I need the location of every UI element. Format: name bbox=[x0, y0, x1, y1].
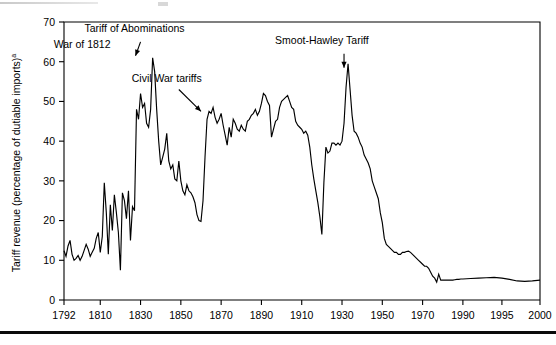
x-axis-tick-labels: 1792181018301850187018901910193019501970… bbox=[52, 309, 552, 321]
x-tick-label: 1995 bbox=[490, 309, 514, 321]
y-tick-label: 50 bbox=[43, 95, 55, 107]
annotation-layer: War of 1812Tariff of AbominationsCivil W… bbox=[54, 22, 369, 111]
x-tick-label: 1970 bbox=[411, 309, 435, 321]
x-tick-label: 1850 bbox=[169, 309, 193, 321]
annotation-label: War of 1812 bbox=[54, 38, 111, 50]
y-axis-tick-labels: 010203040506070 bbox=[43, 16, 55, 306]
x-tick-label: 1890 bbox=[250, 309, 274, 321]
top-decorative-rule bbox=[0, 2, 98, 4]
y-axis-ticks bbox=[59, 22, 64, 300]
y-tick-label: 70 bbox=[43, 16, 55, 28]
x-axis-ticks bbox=[64, 300, 540, 305]
y-tick-label: 10 bbox=[43, 254, 55, 266]
annotation-label: Civil War tariffs bbox=[132, 72, 202, 84]
y-tick-label: 0 bbox=[49, 294, 55, 306]
tariff-revenue-line-chart: 010203040506070 179218101830185018701890… bbox=[0, 0, 556, 330]
x-tick-label: 1810 bbox=[89, 309, 113, 321]
x-tick-label: 1990 bbox=[451, 309, 475, 321]
x-tick-label: 1870 bbox=[209, 309, 233, 321]
bottom-decorative-rule bbox=[0, 331, 556, 334]
y-tick-label: 60 bbox=[43, 56, 55, 68]
x-tick-label: 1950 bbox=[371, 309, 395, 321]
annotation-arrow-head bbox=[135, 49, 140, 56]
top-decorative-mark bbox=[158, 2, 168, 6]
x-tick-label: 1910 bbox=[290, 309, 314, 321]
tariff-series-path bbox=[64, 58, 540, 282]
data-series-line bbox=[64, 58, 540, 282]
x-tick-label: 1792 bbox=[52, 309, 76, 321]
x-tick-label: 1930 bbox=[330, 309, 354, 321]
annotation-arrow-head bbox=[341, 62, 346, 68]
x-tick-label: 1830 bbox=[129, 309, 153, 321]
y-axis-title-text: Tariff revenue (percentage of dutiable i… bbox=[10, 54, 22, 273]
annotation-label: Tariff of Abominations bbox=[84, 22, 184, 34]
annotation-label: Smoot-Hawley Tariff bbox=[275, 34, 369, 46]
figure-container: 010203040506070 179218101830185018701890… bbox=[0, 0, 556, 345]
y-tick-label: 40 bbox=[43, 135, 55, 147]
y-tick-label: 30 bbox=[43, 175, 55, 187]
x-tick-label: 2000 bbox=[528, 309, 552, 321]
y-tick-label: 20 bbox=[43, 214, 55, 226]
y-axis-title: Tariff revenue (percentage of dutiable i… bbox=[10, 54, 22, 273]
